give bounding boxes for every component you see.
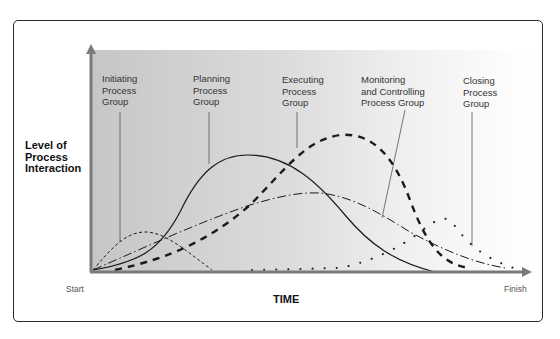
- y-axis-arrow-icon: [86, 44, 96, 54]
- process-interaction-plot: [0, 0, 560, 339]
- label-closing: Closing Process Group: [463, 75, 497, 110]
- label-initiating: Initiating Process Group: [102, 73, 137, 108]
- x-axis-label: TIME: [273, 293, 299, 305]
- label-executing: Executing Process Group: [282, 74, 324, 109]
- label-planning: Planning Process Group: [193, 73, 230, 108]
- x-end-label: Finish: [504, 284, 527, 294]
- label-monitoring-controlling: Monitoring and Controlling Process Group: [361, 74, 425, 109]
- y-axis-label: Level of Process Interaction: [25, 140, 81, 175]
- x-start-label: Start: [66, 284, 84, 294]
